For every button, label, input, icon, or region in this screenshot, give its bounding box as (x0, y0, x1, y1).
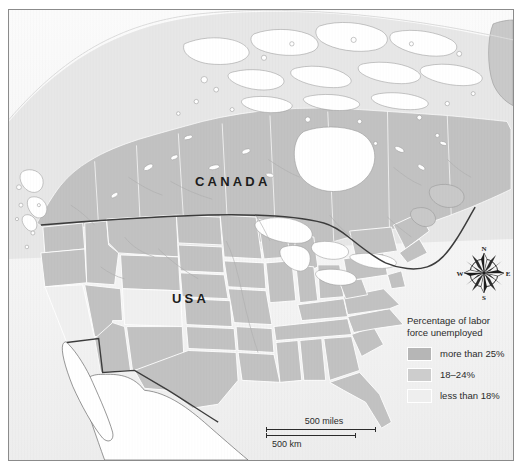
compass-east-label: E (506, 270, 511, 278)
legend-item-less-than-18: less than 18% (407, 387, 514, 404)
compass-rose-graphic: N E S W (456, 243, 512, 303)
scale-rule (266, 429, 376, 430)
scale-miles-label: 500 miles (264, 416, 384, 427)
map-frame: CANADA USA N E S W (8, 9, 514, 461)
compass-west-label: W (457, 270, 464, 278)
legend-swatch-18-24 (407, 368, 432, 382)
legend-label-less-than-18: less than 18% (440, 390, 500, 401)
legend-label-more-than-25: more than 25% (440, 348, 504, 359)
scale-km-bar (264, 433, 384, 439)
map-scale-bar: 500 miles 500 km (264, 416, 384, 450)
clipped-top-text-strip (0, 0, 522, 9)
map-page: CANADA USA N E S W (0, 0, 522, 465)
legend-item-18-24: 18–24% (407, 366, 514, 383)
legend-title: Percentage of labor force unemployed (407, 315, 514, 339)
map-legend: Percentage of labor force unemployed mor… (407, 315, 514, 408)
legend-swatch-more-than-25 (407, 347, 432, 361)
scale-km-rule (266, 435, 356, 436)
scale-km-tick-right (355, 433, 356, 438)
compass-center (483, 272, 486, 275)
scale-km-label: 500 km (264, 439, 384, 450)
compass-north-label: N (481, 245, 486, 253)
legend-item-more-than-25: more than 25% (407, 345, 514, 362)
legend-label-18-24: 18–24% (440, 369, 475, 380)
compass-rose: N E S W (456, 243, 512, 303)
scale-tick-right (375, 427, 376, 432)
legend-swatch-less-than-18 (407, 389, 432, 403)
compass-south-label: S (482, 294, 486, 302)
